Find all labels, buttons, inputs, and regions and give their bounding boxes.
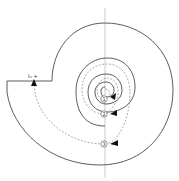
arrowhead-step-2 xyxy=(110,110,117,116)
step-label-2: 2 xyxy=(102,111,105,117)
step-label-1: 1 xyxy=(102,96,105,102)
top-label: t₁ + xyxy=(28,73,38,79)
dashed-spiral-path xyxy=(34,64,130,144)
outer-spiral xyxy=(7,23,173,165)
arrowhead-top xyxy=(31,79,37,86)
step-marker-1: 1 xyxy=(101,96,107,103)
spiral-diagram: 1 2 3 t₁ + xyxy=(0,0,179,181)
step-marker-3: 3 xyxy=(101,141,107,148)
arrowhead-step-3 xyxy=(110,140,118,146)
step-label-3: 3 xyxy=(102,141,105,147)
step-marker-2: 2 xyxy=(101,111,107,118)
